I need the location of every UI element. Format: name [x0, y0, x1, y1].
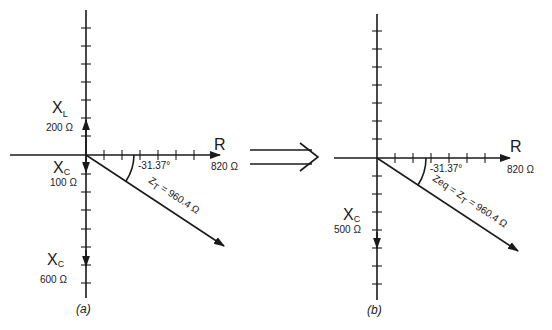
zeq-label-b: Zeq = ZT = 960.4 Ω	[429, 172, 510, 232]
caption-a: (a)	[76, 302, 91, 316]
xl-label-a: XL	[52, 99, 68, 119]
xl-value-a: 200 Ω	[46, 122, 73, 133]
r-label-b: R	[510, 138, 522, 155]
r-value-b: 820 Ω	[507, 164, 534, 175]
transform-arrow	[250, 143, 318, 171]
angle-arc-b	[418, 158, 426, 185]
panel-b: R 820 Ω -31.37° XC 500 Ω Zeq = ZT = 960.…	[334, 14, 534, 317]
xc-large-value-a: 600 Ω	[40, 274, 67, 285]
angle-arc-a	[126, 155, 134, 181]
xc-small-label-a: XC	[53, 159, 71, 177]
caption-b: (b)	[367, 303, 382, 317]
xc-value-b: 500 Ω	[334, 224, 361, 235]
xc-small-value-a: 100 Ω	[50, 177, 77, 188]
xc-large-label-a: XC	[47, 251, 65, 269]
angle-label-a: -31.37°	[138, 160, 170, 171]
phasor-diagram: XL 200 Ω XC 100 Ω XC 600 Ω R 820 Ω -31.3…	[0, 0, 552, 330]
r-label-a: R	[214, 136, 226, 153]
xc-label-b: XC	[343, 206, 361, 224]
r-value-a: 820 Ω	[211, 161, 238, 172]
angle-label-b: -31.37°	[430, 163, 462, 174]
panel-a: XL 200 Ω XC 100 Ω XC 600 Ω R 820 Ω -31.3…	[10, 10, 238, 316]
